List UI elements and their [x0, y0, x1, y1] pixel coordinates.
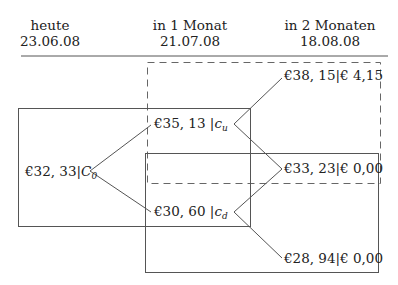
node-price: €30, 60 — [154, 203, 206, 219]
node-price: €32, 33 — [25, 163, 77, 179]
edge-up-uu — [234, 78, 282, 124]
node-price: €38, 15 — [284, 67, 336, 83]
node-payoff: € 0,00 — [340, 160, 383, 176]
edge-root-up — [90, 125, 151, 171]
edge-up-ud — [234, 124, 282, 169]
node-down-down: €28, 94|€ 0,00 — [284, 250, 383, 266]
edge-down-dd — [234, 212, 282, 258]
node-up-up: €38, 15|€ 4,15 — [284, 67, 383, 83]
node-price: €35, 13 — [154, 115, 206, 131]
node-variable: C — [81, 163, 91, 179]
node-variable: c — [214, 115, 222, 131]
edge-down-ud — [234, 169, 282, 212]
binomial-tree-lines — [0, 0, 398, 285]
node-up: €35, 13 |cu — [154, 115, 228, 136]
node-up-down: €33, 23|€ 0,00 — [284, 160, 383, 176]
node-down: €30, 60 |cd — [154, 203, 228, 224]
edge-root-down — [90, 171, 151, 212]
node-payoff: € 0,00 — [340, 250, 383, 266]
node-price: €33, 23 — [284, 160, 336, 176]
node-payoff: € 4,15 — [340, 67, 383, 83]
node-price: €28, 94 — [284, 250, 336, 266]
node-variable: c — [214, 203, 222, 219]
node-root: €32, 33|C0 — [25, 163, 97, 184]
